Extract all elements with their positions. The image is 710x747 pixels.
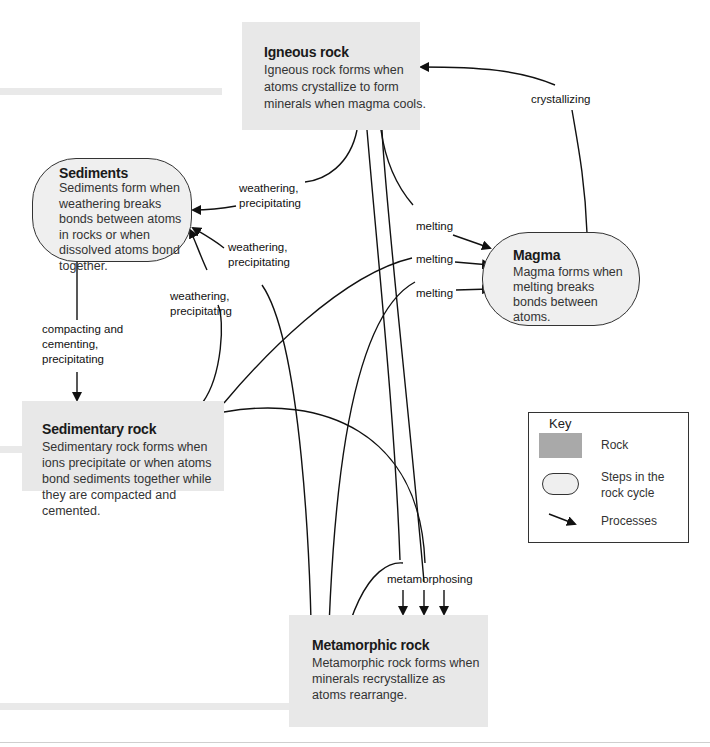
sediments-oval: Sediments Sediments form when weathering…	[32, 158, 192, 262]
magma-description: Magma forms when melting breaks bonds be…	[513, 265, 623, 325]
metamorphic-rock-description: Metamorphic rock forms when minerals rec…	[312, 655, 482, 703]
igneous-rock-description: Igneous rock forms when atoms crystalliz…	[264, 62, 429, 113]
magma-title: Magma	[513, 247, 639, 263]
label-weathering-3: weathering, precipitating	[170, 289, 244, 319]
sediments-description: Sediments form when weathering breaks bo…	[59, 181, 191, 274]
igneous-rock-box: Igneous rock Igneous rock forms when ato…	[242, 22, 420, 130]
label-weathering-2: weathering, precipitating	[228, 240, 300, 270]
metamorphic-rock-title: Metamorphic rock	[312, 637, 488, 653]
key-label-rock: Rock	[601, 437, 628, 453]
label-melting-1: melting	[416, 219, 453, 234]
rock-swatch-icon	[539, 433, 582, 458]
key-title: Key	[549, 416, 571, 431]
label-melting-2: melting	[416, 252, 453, 267]
metamorphic-rock-box: Metamorphic rock Metamorphic rock forms …	[289, 615, 488, 727]
label-crystallizing: crystallizing	[531, 92, 590, 107]
label-weathering-1: weathering, precipitating	[239, 181, 309, 211]
bottom-divider	[0, 742, 710, 743]
sedimentary-rock-description: Sedimentary rock forms when ions precipi…	[42, 439, 222, 519]
step-oval-icon	[542, 473, 579, 495]
process-arrow-icon	[547, 511, 587, 531]
key-label-steps: Steps in the rock cycle	[601, 469, 671, 501]
igneous-rock-title: Igneous rock	[264, 44, 420, 60]
sedimentary-rock-title: Sedimentary rock	[42, 421, 224, 437]
sediments-title: Sediments	[59, 165, 191, 181]
label-metamorphosing: metamorphosing	[387, 572, 473, 587]
legend-key: Key Rock Steps in the rock cycle Process…	[528, 412, 689, 543]
sedimentary-rock-box: Sedimentary rock Sedimentary rock forms …	[22, 401, 224, 491]
key-label-processes: Processes	[601, 513, 657, 529]
label-melting-3: melting	[416, 286, 453, 301]
magma-oval: Magma Magma forms when melting breaks bo…	[482, 232, 640, 326]
label-compacting: compacting and cementing, precipitating	[42, 322, 142, 367]
